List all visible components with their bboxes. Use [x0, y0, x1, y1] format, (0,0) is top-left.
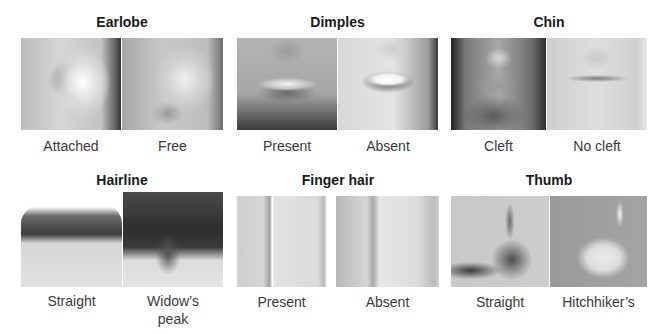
panel-title: Chin [451, 14, 647, 30]
hitchhikers-thumb-photo [550, 196, 647, 287]
option-label: Straight [21, 292, 122, 310]
straight-thumb-photo [451, 196, 549, 287]
option-label-line: peak [123, 310, 223, 328]
dimples-present-photo [237, 38, 337, 130]
straight-hairline-photo [21, 196, 122, 287]
panel-thumb: Thumb Straight Hitchhiker’s [451, 172, 647, 332]
attached-earlobe-photo [21, 38, 121, 130]
option-label: No cleft [547, 137, 647, 155]
option-label: Hitchhiker’s [545, 293, 652, 311]
option-label: Free [122, 137, 223, 155]
no-cleft-chin-photo [547, 38, 647, 130]
dimples-absent-photo [338, 38, 438, 130]
panel-title: Hairline [21, 172, 223, 188]
option-label: Cleft [451, 137, 546, 155]
option-label: Present [237, 137, 337, 155]
finger-hair-absent-photo [336, 196, 439, 287]
option-label: Attached [21, 137, 121, 155]
panel-title: Dimples [237, 14, 438, 30]
panel-earlobe: Earlobe Attached Free [21, 14, 223, 164]
option-label: Absent [336, 293, 439, 311]
free-earlobe-photo [122, 38, 223, 130]
panel-hairline: Hairline Straight Widow’s peak [21, 172, 223, 332]
panel-title: Thumb [451, 172, 647, 188]
panel-chin: Chin Cleft No cleft [451, 14, 647, 164]
option-label: Present [236, 293, 327, 311]
option-label-multiline: Widow’s peak [123, 292, 223, 328]
finger-hair-present-photo [236, 196, 327, 287]
panel-finger-hair: Finger hair Present Absent [236, 172, 440, 332]
widows-peak-photo [123, 192, 223, 287]
option-label: Absent [338, 137, 438, 155]
panel-dimples: Dimples Present Absent [237, 14, 438, 164]
panel-title: Earlobe [21, 14, 223, 30]
option-label-line: Widow’s [123, 292, 223, 310]
panel-title: Finger hair [236, 172, 440, 188]
option-label: Straight [451, 293, 549, 311]
cleft-chin-photo [451, 38, 546, 130]
